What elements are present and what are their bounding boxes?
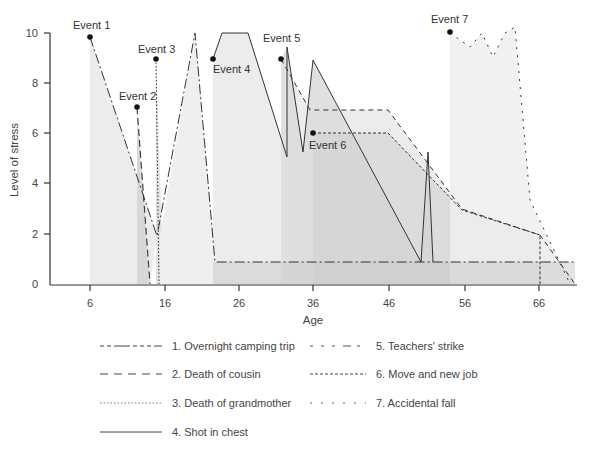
legend-item-7: 7. Accidental fall (310, 395, 456, 411)
svg-text:2: 2 (32, 228, 38, 240)
legend-item-3: 3. Death of grandmother (100, 395, 291, 411)
event-7-label: Event 7 (431, 13, 468, 25)
svg-text:6: 6 (87, 297, 93, 309)
y-tick-labels: 0 2 4 6 8 10 (26, 27, 38, 290)
legend-item-4: 4. Shot in chest (100, 424, 248, 440)
dashed-line-icon (100, 371, 162, 377)
svg-text:36: 36 (307, 297, 319, 309)
legend-label: 2. Death of cousin (172, 368, 261, 380)
svg-text:0: 0 (32, 278, 38, 290)
legend-label: 4. Shot in chest (172, 426, 248, 438)
event-3-label: Event 3 (138, 43, 175, 55)
x-tick-labels: 6 16 26 36 46 56 66 (87, 297, 545, 309)
shaded-areas (90, 27, 575, 284)
event-5-dot (278, 56, 284, 62)
event-6-dot (310, 130, 316, 136)
legend-label: 7. Accidental fall (376, 397, 456, 409)
event-2-dot (134, 104, 140, 110)
legend-item-2: 2. Death of cousin (100, 366, 261, 382)
y-axis-label: Level of stress (8, 123, 20, 197)
fine-dash-line-icon (310, 371, 366, 377)
svg-text:66: 66 (533, 297, 545, 309)
stress-chart: Event 1 Event 2 Event 3 Event 4 Event 5 … (0, 0, 591, 340)
event-4-dot (210, 56, 216, 62)
legend-label: 5. Teachers' strike (376, 340, 464, 352)
dotted-line-icon (100, 400, 162, 406)
svg-text:4: 4 (32, 177, 38, 189)
legend-item-1: 1. Overnight camping trip (100, 338, 295, 354)
svg-text:8: 8 (32, 77, 38, 89)
event-2-label: Event 2 (119, 90, 156, 102)
svg-text:26: 26 (233, 297, 245, 309)
solid-line-icon (100, 429, 162, 435)
svg-text:46: 46 (383, 297, 395, 309)
svg-text:6: 6 (32, 127, 38, 139)
svg-text:16: 16 (159, 297, 171, 309)
legend-label: 3. Death of grandmother (172, 397, 291, 409)
sparse-dash-line-icon (310, 400, 366, 406)
event-3-dot (153, 56, 159, 62)
long-dash-line-icon (310, 343, 366, 349)
event-1-label: Event 1 (73, 19, 110, 31)
event-6-label: Event 6 (309, 139, 346, 151)
x-axis-label: Age (303, 314, 323, 326)
legend-label: 1. Overnight camping trip (172, 340, 295, 352)
y-axis (44, 33, 50, 285)
event-4-label: Event 4 (213, 63, 250, 75)
event-1-dot (87, 34, 93, 40)
event-7-dot (447, 29, 453, 35)
event-5-label: Event 5 (263, 32, 300, 44)
svg-text:10: 10 (26, 27, 38, 39)
legend-item-5: 5. Teachers' strike (310, 338, 464, 354)
svg-text:56: 56 (459, 297, 471, 309)
legend-label: 6. Move and new job (376, 368, 478, 380)
x-axis (50, 285, 577, 291)
dash-dot-line-icon (100, 343, 162, 349)
legend-item-6: 6. Move and new job (310, 366, 478, 382)
